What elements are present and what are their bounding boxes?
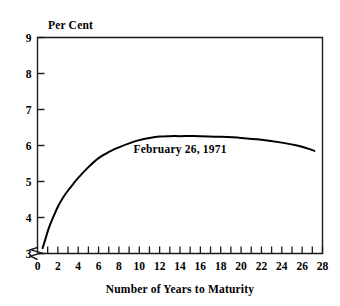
x-tick-label: 4: [75, 260, 81, 272]
x-tick-label: 14: [174, 260, 186, 272]
x-tick-label: 28: [317, 260, 329, 272]
x-axis-title: Number of Years to Maturity: [106, 283, 255, 296]
y-axis-title: Per Cent: [48, 19, 93, 31]
x-tick-label: 26: [296, 260, 308, 272]
y-tick-label: 9: [26, 32, 32, 44]
yield-curve-figure: 34567890246810121416182022242628February…: [0, 0, 340, 306]
y-axis: 3456789: [26, 32, 45, 260]
curve-date-annotation: February 26, 1971: [133, 143, 226, 156]
chart-svg: 34567890246810121416182022242628February…: [0, 0, 340, 306]
y-tick-label: 7: [26, 104, 32, 116]
x-tick-label: 12: [154, 260, 166, 272]
x-axis: 0246810121416182022242628: [35, 247, 329, 272]
y-tick-label: 6: [26, 140, 32, 152]
x-tick-label: 6: [96, 260, 102, 272]
x-tick-label: 10: [134, 260, 146, 272]
x-tick-label: 0: [35, 260, 41, 272]
y-axis-break-icon: [31, 248, 42, 260]
x-tick-label: 18: [215, 260, 227, 272]
y-tick-label: 4: [26, 212, 32, 224]
x-tick-label: 2: [55, 260, 61, 272]
x-tick-label: 20: [235, 260, 247, 272]
x-tick-label: 22: [256, 260, 268, 272]
x-tick-label: 24: [276, 260, 288, 272]
y-tick-label: 5: [26, 176, 32, 188]
x-tick-label: 16: [195, 260, 207, 272]
y-tick-label: 8: [26, 68, 32, 80]
x-tick-label: 8: [116, 260, 122, 272]
